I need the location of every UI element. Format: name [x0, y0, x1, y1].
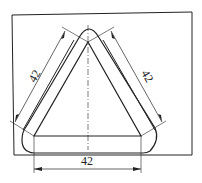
- technical-drawing: 42 42 42: [0, 0, 202, 183]
- arrowhead-icon: [34, 167, 42, 171]
- dimension-label-bottom: 42: [81, 154, 93, 168]
- dimension-label-right: 42: [138, 67, 156, 84]
- extension-line-top-left: [62, 27, 88, 42]
- outer-profile: [22, 29, 157, 153]
- extension-line-bottom-right: [141, 121, 166, 136]
- left-offset-line: [23, 40, 74, 130]
- arrowhead-icon: [133, 167, 141, 171]
- sheet-border: [12, 12, 192, 155]
- dimension-label-left: 42: [25, 67, 43, 84]
- right-offset-line: [103, 40, 155, 130]
- arrowhead-icon: [111, 31, 115, 39]
